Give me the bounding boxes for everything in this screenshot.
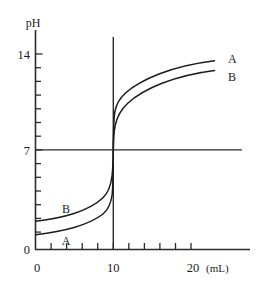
y-tick-label-7: 7 xyxy=(24,144,30,158)
y-axis-title: pH xyxy=(26,16,41,30)
curve-a-label-lower: A xyxy=(62,234,71,248)
x-tick-label-0: 0 xyxy=(34,261,40,275)
curve-b-label-lower: B xyxy=(62,202,70,216)
x-tick-label-20: 20 xyxy=(187,261,200,275)
curve-a-label-upper: A xyxy=(228,52,237,66)
y-tick-label-0: 0 xyxy=(24,243,30,257)
ph-titration-curve-figure: pH 14 7 0 0 10 20 (mL) A B B A xyxy=(0,0,274,284)
axes-group xyxy=(35,30,250,250)
x-axis-unit-label: (mL) xyxy=(206,262,229,275)
y-axis-ticks-group xyxy=(36,54,43,232)
titration-plot-canvas: pH 14 7 0 0 10 20 (mL) A B B A xyxy=(0,0,274,284)
curve-b-label-upper: B xyxy=(228,70,236,84)
x-axis-ticks-group xyxy=(51,243,191,250)
x-tick-label-10: 10 xyxy=(107,261,120,275)
y-tick-label-14: 14 xyxy=(18,48,31,62)
